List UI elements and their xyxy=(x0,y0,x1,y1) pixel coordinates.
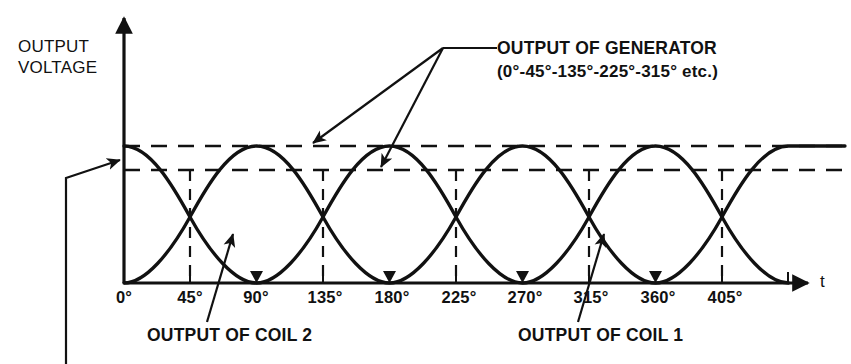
y-axis-title-line1: OUTPUT xyxy=(18,36,97,57)
tick-label-135: 135° xyxy=(308,288,343,307)
y-axis-title: OUTPUT VOLTAGE xyxy=(18,36,97,78)
coil-2-callout: OUTPUT OF COIL 2 xyxy=(147,323,312,347)
generator-leader-to-peak-line xyxy=(313,48,443,143)
generator-leader-to-crossing-line xyxy=(381,48,443,167)
tick-label-45: 45° xyxy=(177,288,203,307)
generator-callout: OUTPUT OF GENERATOR (0°-45°-135°-225°-31… xyxy=(497,36,718,84)
tick-label-225: 225° xyxy=(442,288,477,307)
tick-label-315: 315° xyxy=(574,288,609,307)
coil-2-waveform xyxy=(124,146,845,283)
crossing-drop-lines xyxy=(190,170,722,283)
tick-label-90: 90° xyxy=(243,288,269,307)
tick-label-0: 0° xyxy=(116,288,132,307)
tick-label-360: 360° xyxy=(641,288,676,307)
x-axis-label: t xyxy=(820,272,825,292)
coil-1-callout-leader xyxy=(578,234,604,322)
generator-callout-line1: OUTPUT OF GENERATOR xyxy=(497,36,718,60)
tick-label-405: 405° xyxy=(708,288,743,307)
tick-label-180: 180° xyxy=(375,288,410,307)
output-voltage-level-leader xyxy=(66,160,120,364)
tick-label-270: 270° xyxy=(508,288,543,307)
figure-canvas xyxy=(0,0,851,364)
waveform-figure: OUTPUT VOLTAGE OUTPUT OF GENERATOR (0°-4… xyxy=(0,0,851,364)
coil-1-callout: OUTPUT OF COIL 1 xyxy=(518,323,683,347)
y-axis-title-line2: VOLTAGE xyxy=(18,57,97,78)
generator-callout-line2: (0°-45°-135°-225°-315° etc.) xyxy=(497,60,718,84)
